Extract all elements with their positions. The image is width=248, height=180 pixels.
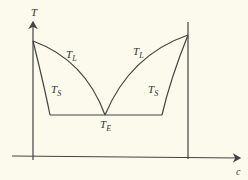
tl-right-label: TL: [133, 45, 144, 60]
liquidus-right-curve: [105, 35, 188, 115]
phase-diagram: T c TL TL TS TS TE: [0, 0, 248, 180]
te-label: TE: [100, 118, 111, 133]
solidus-left-curve: [33, 41, 50, 115]
x-axis: [12, 156, 240, 158]
ts-left-label: TS: [51, 83, 61, 98]
x-axis-label: c: [236, 166, 241, 177]
ts-right-label: TS: [148, 83, 158, 98]
y-axis-label: T: [31, 6, 38, 18]
solidus-right-curve: [162, 35, 188, 115]
